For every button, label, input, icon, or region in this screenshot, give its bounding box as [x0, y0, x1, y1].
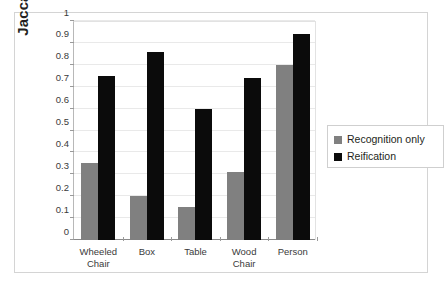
y-axis-tick-label: 0: [64, 227, 69, 237]
bar-group: WoodChair: [220, 22, 269, 240]
bar: [195, 109, 212, 240]
bar-pair: [227, 22, 261, 240]
y-axis-tick-label: 0.2: [56, 183, 69, 193]
bar: [130, 196, 147, 240]
bar: [276, 65, 293, 240]
bar: [81, 163, 98, 240]
legend-item: Reification: [334, 148, 443, 165]
y-axis-tick-mark: [70, 20, 74, 21]
chart-legend: Recognition only Reification: [327, 125, 444, 168]
y-axis-tick-label: 0.5: [56, 117, 69, 127]
y-axis-tick-label: 0.9: [56, 29, 69, 39]
y-axis-tick-label: 0.8: [56, 51, 69, 61]
bar: [178, 207, 195, 240]
y-axis-tick-label: 0.4: [56, 139, 69, 149]
bar-group: Person: [268, 22, 317, 240]
y-axis-title: Jaccard Index: [12, 0, 34, 65]
bar: [227, 172, 244, 240]
legend-label-recognition-only: Recognition only: [347, 134, 425, 145]
bar-group: Box: [123, 22, 172, 240]
bar-group: WheeledChair: [74, 22, 123, 240]
gridline: [74, 20, 315, 21]
y-axis-tick-label: 1: [64, 8, 69, 18]
plot-area: 00.10.20.30.40.50.60.70.80.91 WheeledCha…: [73, 21, 316, 240]
y-axis-tick-label: 0.7: [56, 73, 69, 83]
bar: [98, 76, 115, 240]
legend-swatch-recognition-only: [334, 136, 342, 144]
chart-frame: Jaccard Index 00.10.20.30.40.50.60.70.80…: [14, 12, 428, 273]
x-axis-category-label-line: Chair: [212, 258, 276, 270]
legend-swatch-reification: [334, 153, 342, 161]
x-axis-category-label: Person: [261, 246, 325, 258]
bar-pair: [276, 22, 310, 240]
legend-label-reification: Reification: [347, 151, 396, 162]
y-axis-tick-label: 0.1: [56, 205, 69, 215]
bar-pair: [130, 22, 164, 240]
bar-group: Table: [171, 22, 220, 240]
bar: [293, 34, 310, 240]
x-axis-category-label-line: Person: [261, 246, 325, 258]
bar-pair: [81, 22, 115, 240]
bar: [244, 78, 261, 240]
x-axis-tick-mark: [317, 237, 318, 241]
bar-pair: [178, 22, 212, 240]
x-axis-category-label-line: Chair: [66, 258, 130, 270]
y-axis-tick-label: 0.3: [56, 161, 69, 171]
y-axis-tick-label: 0.6: [56, 95, 69, 105]
bar: [147, 52, 164, 240]
legend-item: Recognition only: [334, 131, 443, 148]
